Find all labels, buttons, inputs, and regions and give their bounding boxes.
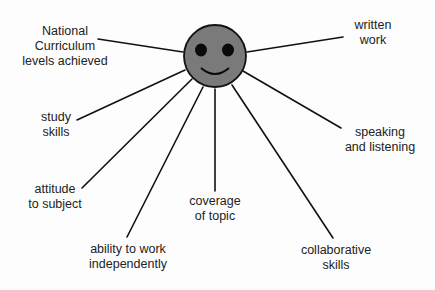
connector-study-skills: [77, 70, 185, 120]
label-line: of topic: [184, 209, 246, 224]
label-line: to subject: [24, 197, 86, 212]
label-line: work: [343, 33, 403, 48]
label-line: and listening: [340, 140, 420, 155]
label-line: ability to work: [86, 242, 170, 257]
label-speaking-listening: speaking and listening: [340, 125, 420, 155]
label-study-skills: study skills: [36, 110, 76, 140]
connector-attitude: [82, 79, 192, 188]
label-ability: ability to work independently: [86, 242, 170, 272]
label-written-work: written work: [343, 18, 403, 48]
label-line: Curriculum: [18, 39, 112, 54]
label-line: speaking: [340, 125, 420, 140]
label-line: collaborative: [298, 243, 374, 258]
label-attitude: attitude to subject: [24, 182, 86, 212]
label-coverage: coverage of topic: [184, 194, 246, 224]
label-line: written: [343, 18, 403, 33]
label-line: skills: [298, 258, 374, 273]
label-line: coverage: [184, 194, 246, 209]
connector-speaking-listening: [243, 71, 341, 128]
label-line: skills: [36, 125, 76, 140]
label-line: attitude: [24, 182, 86, 197]
label-line: National: [18, 24, 112, 39]
connector-written-work: [247, 37, 343, 52]
spider-diagram: National Curriculum levels achieved writ…: [0, 0, 435, 290]
connector-collaborative: [232, 85, 333, 238]
label-line: levels achieved: [18, 54, 112, 69]
label-line: study: [36, 110, 76, 125]
label-nc-levels: National Curriculum levels achieved: [18, 24, 112, 69]
label-collaborative: collaborative skills: [298, 243, 374, 273]
smiley-face-icon: [184, 25, 246, 87]
label-line: independently: [86, 257, 170, 272]
